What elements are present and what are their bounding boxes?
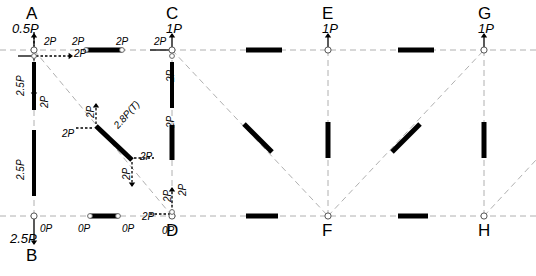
joint-minor-5 [116, 214, 121, 219]
force-top-AC-right: 2P [116, 37, 128, 47]
force-B-up-2p5: 2.5P [16, 159, 26, 180]
force-D-up-2p: 2P [163, 190, 173, 202]
node-load-C: 1P [166, 22, 182, 35]
member-diag-FG [392, 124, 420, 152]
force-bottom-BD-left: 0P [78, 224, 90, 234]
force-A-horiz: 2P [74, 49, 86, 59]
joint-E [325, 47, 331, 53]
head-A-down [31, 93, 37, 97]
force-C-down-2p: 2P [166, 70, 176, 82]
force-top-AC-left: 2P [72, 37, 84, 47]
joint-minor-6 [170, 210, 175, 215]
joint-F [325, 213, 331, 219]
joint-G [481, 47, 487, 53]
force-A-top-right: 2P [44, 37, 56, 47]
node-load-E: 1P [322, 22, 338, 35]
member-diag-AD [96, 126, 132, 160]
head-diag-dn [129, 183, 135, 187]
member-diag-CF [244, 124, 272, 152]
joint-minor-4 [88, 214, 93, 219]
node-letter-A: A [26, 5, 37, 22]
node-load-B: 2.5P [10, 232, 37, 245]
node-letter-B: B [26, 247, 37, 264]
force-D-left-2p: 2P [142, 212, 154, 222]
force-A-down-2p: 2P [40, 96, 50, 108]
force-C-left-2p: 2P [154, 37, 166, 47]
force-diag-lower-2p: 2P [122, 168, 132, 180]
node-letter-H: H [478, 222, 490, 239]
joint-A [31, 47, 37, 53]
force-diag-right-2p: 2P [140, 152, 152, 162]
joint-H [481, 213, 487, 219]
node-letter-G: G [478, 5, 491, 22]
diagonal-H-right [484, 160, 536, 216]
joint-minor-3 [170, 54, 175, 59]
joint-minor-2 [32, 54, 37, 59]
force-diag-left-2p: 2P [62, 129, 74, 139]
node-letter-F: F [322, 222, 332, 239]
node-letter-C: C [166, 5, 178, 22]
node-load-A: 0.5P [12, 22, 39, 35]
force-D-zero: 0P [162, 226, 174, 236]
force-D-right-2p: 2P [178, 184, 188, 196]
truss-diagram-canvas: A0.5PB2.5PC1PDE1PFG1PH2P2P2.5P2P2.5P0P2P… [0, 0, 536, 276]
node-letter-E: E [322, 5, 333, 22]
node-load-G: 1P [478, 22, 494, 35]
force-diag-upper-2p: 2P [86, 106, 96, 118]
force-A-left-2p5: 2.5P [16, 75, 26, 96]
force-bottom-BD-right: 0P [122, 224, 134, 234]
joint-minor-1 [120, 48, 125, 53]
joint-C [169, 47, 175, 53]
force-B-zero: 0P [40, 224, 52, 234]
joint-B [31, 213, 37, 219]
diagonal-F-G [328, 50, 484, 216]
force-CD-mid-2p: 2P [166, 116, 176, 128]
head-A-right [69, 53, 73, 59]
